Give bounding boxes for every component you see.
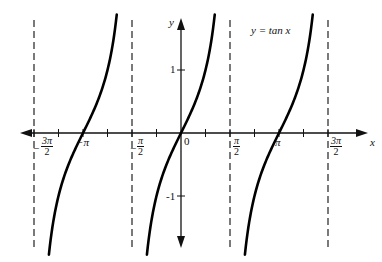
function-label: y = tan x (251, 25, 291, 36)
minus-sign: − (33, 143, 39, 154)
x-axis-arrow-right-icon (356, 129, 368, 137)
y-axis-label: y (169, 17, 174, 28)
origin-label: 0 (184, 136, 190, 147)
x-tick-neg-pi: −π (76, 137, 89, 148)
x-tick-neg-3pi-2: 3π 2 (41, 136, 53, 157)
tan-curve-branch (49, 15, 117, 255)
x-tick-neg-pi-2: π 2 (137, 136, 144, 157)
y-axis-arrow-up-icon (177, 18, 185, 30)
x-tick-pi-2: π 2 (233, 136, 240, 157)
x-tick-pi: π (275, 137, 281, 148)
x-tick-3pi-2: 3π 2 (330, 136, 342, 157)
minus-sign: − (130, 143, 136, 154)
x-axis-label: x (370, 137, 375, 148)
plot-area (0, 0, 382, 262)
y-tick-1: 1 (170, 64, 176, 75)
y-tick-neg1: -1 (166, 191, 175, 202)
x-axis-arrow-left-icon (20, 129, 32, 137)
tan-chart: y = tan x y x 1 -1 0 −π π − 3π 2 − π 2 π… (0, 0, 382, 262)
y-axis-arrow-down-icon (177, 236, 185, 248)
tan-curve-branch (245, 15, 313, 255)
